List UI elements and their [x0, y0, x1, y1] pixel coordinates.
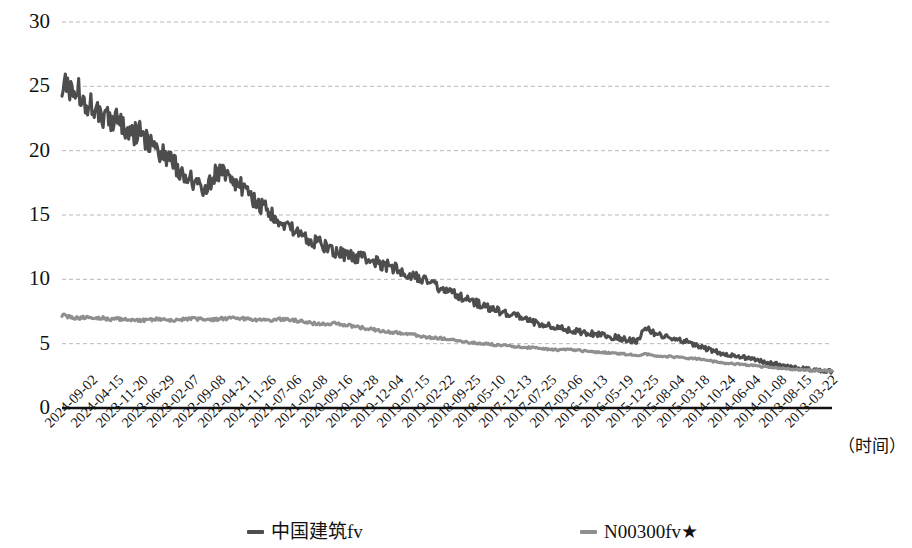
chart-plot-area [0, 0, 912, 548]
chart-legend: 中国建筑fvN00300fv★ [0, 519, 912, 548]
legend-label: N00300fv★ [604, 521, 698, 542]
legend-dash-icon [247, 530, 264, 534]
legend-dash-icon [580, 530, 597, 534]
series-line-2 [62, 314, 832, 371]
legend-label: 中国建筑fv [271, 521, 363, 542]
y-axis-tick-label: 0 [6, 397, 50, 418]
x-axis-title: （时间） [838, 432, 906, 457]
y-axis-tick-label: 30 [6, 11, 50, 32]
y-axis-tick-label: 20 [6, 140, 50, 161]
y-axis-tick-label: 5 [6, 333, 50, 354]
y-axis-tick-label: 10 [6, 268, 50, 289]
y-axis-tick-label: 15 [6, 204, 50, 225]
legend-item[interactable]: 中国建筑fv [247, 521, 363, 542]
gridlines-group [62, 22, 832, 344]
y-axis-tick-label: 25 [6, 75, 50, 96]
line-chart: 302520151050 2024-09-022024-04-152023-11… [0, 0, 912, 548]
legend-item[interactable]: N00300fv★ [580, 521, 698, 542]
series-paths-group [62, 74, 832, 373]
series-line-1 [62, 74, 832, 373]
